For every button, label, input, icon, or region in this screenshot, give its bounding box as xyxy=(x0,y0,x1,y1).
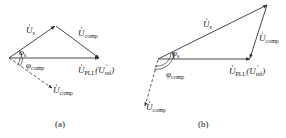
panel-a: Us Ucomp φs φcomp UPLL(Uref) Ucomp (a) xyxy=(9,24,114,129)
label-us-b: Us xyxy=(203,19,213,30)
label-upll-b: UPLL(Uref) xyxy=(229,66,265,77)
ucomp-vector-b xyxy=(250,5,267,58)
label-phi-comp-b: φcomp xyxy=(166,69,184,80)
label-phi-s-b: φs xyxy=(172,48,180,59)
label-upll-a: UPLL(Uref) xyxy=(78,65,114,76)
panel-b: Us Ucomp φs φcomp UPLL(Uref) Ucomp (b) xyxy=(145,5,279,129)
caption-b: (b) xyxy=(198,119,209,129)
phi-comp-arc-a xyxy=(18,58,20,65)
label-phi-comp-a: φcomp xyxy=(26,60,44,71)
label-phi-s-a: φs xyxy=(19,47,27,58)
label-ucomp-a: Ucomp xyxy=(78,28,98,39)
label-us-a: Us xyxy=(26,25,36,36)
phasor-diagram: Us Ucomp φs φcomp UPLL(Uref) Ucomp (a) U… xyxy=(0,0,286,138)
ucomp-dashed-vector-b xyxy=(145,60,158,106)
label-ucomp-b: Ucomp xyxy=(259,33,279,44)
label-ucomp-dash-b: Ucomp xyxy=(146,102,166,113)
label-ucomp-dash-a: Ucomp xyxy=(53,85,73,96)
caption-a: (a) xyxy=(55,119,65,129)
phasor-dots-b xyxy=(149,18,263,102)
phi-comp-arc-b xyxy=(155,53,171,66)
